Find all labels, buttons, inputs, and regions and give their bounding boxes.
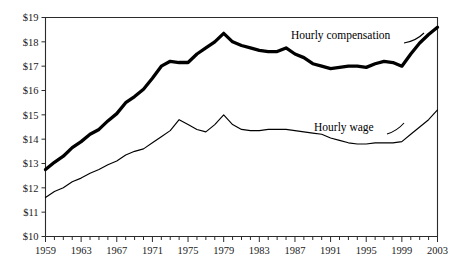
x-axis-tick-label: 1975 [178, 245, 199, 256]
y-axis-tick-label: $13 [23, 158, 39, 169]
x-axis-tick-label: 1995 [356, 245, 377, 256]
annotation-hourly-wage: Hourly wage [314, 121, 374, 134]
x-axis-tick-label: 2003 [427, 245, 448, 256]
y-axis-tick-label: $12 [23, 183, 39, 194]
annotation-leader-hourly-wage [387, 123, 404, 134]
annotation-hourly-compensation: Hourly compensation [291, 29, 391, 42]
plot-frame [46, 18, 438, 237]
x-axis-tick-label: 1983 [249, 245, 270, 256]
line-chart: $19$18$17$16$15$14$13$12$11$101959196319… [0, 0, 460, 277]
x-axis-tick-label: 1987 [284, 245, 305, 256]
x-axis-tick-label: 1971 [142, 245, 163, 256]
y-axis-tick-label: $16 [23, 85, 39, 96]
y-axis-tick-label: $17 [23, 61, 39, 72]
series-line-hourly-compensation [46, 27, 438, 169]
chart-container: $19$18$17$16$15$14$13$12$11$101959196319… [0, 0, 460, 277]
x-axis-tick-label: 1979 [213, 245, 234, 256]
y-axis-tick-label: $19 [23, 12, 39, 23]
x-axis-tick-label: 1999 [391, 245, 412, 256]
x-axis-tick-label: 1991 [320, 245, 341, 256]
y-axis-tick-label: $14 [23, 134, 40, 145]
y-axis-tick-label: $18 [23, 37, 39, 48]
x-axis-tick-label: 1959 [35, 245, 56, 256]
x-axis-tick-label: 1963 [71, 245, 92, 256]
x-axis-tick-label: 1967 [106, 245, 127, 256]
y-axis-tick-label: $10 [23, 231, 39, 242]
y-axis-tick-label: $15 [23, 110, 39, 121]
y-axis-tick-label: $11 [23, 207, 38, 218]
